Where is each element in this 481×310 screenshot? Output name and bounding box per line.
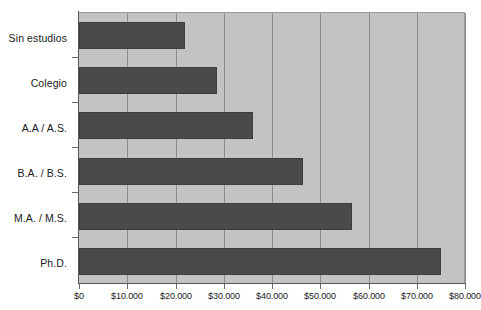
y-axis-label-3: B.A. / B.S. xyxy=(0,168,67,179)
y-axis-category-labels: Sin estudios Colegio A.A / A.S. B.A. / B… xyxy=(0,12,72,283)
x-axis-tick-label-6: $60.000 xyxy=(353,291,385,301)
x-axis-tick-1 xyxy=(127,284,128,289)
plot-area xyxy=(79,12,465,283)
y-axis-label-0: Sin estudios xyxy=(0,33,67,44)
x-axis-tick-2 xyxy=(176,284,177,289)
x-axis-tick-label-4: $40.000 xyxy=(256,291,288,301)
y-axis-label-4: M.A. / M.S. xyxy=(0,213,67,224)
y-axis-label-1: Colegio xyxy=(0,78,67,89)
x-axis-tick-8 xyxy=(465,284,466,289)
x-gridline xyxy=(272,13,273,284)
x-axis-tick-label-8: $80.000 xyxy=(449,291,481,301)
bar-4 xyxy=(79,203,352,230)
x-axis-tick-0 xyxy=(79,284,80,289)
x-gridline xyxy=(465,13,466,284)
x-axis-tick-4 xyxy=(272,284,273,289)
bar-1 xyxy=(79,67,217,94)
x-gridline xyxy=(417,13,418,284)
x-axis-tick-label-2: $20.000 xyxy=(160,291,192,301)
x-axis-tick-6 xyxy=(369,284,370,289)
x-axis-tick-7 xyxy=(417,284,418,289)
x-gridline xyxy=(127,13,128,284)
bar-0 xyxy=(79,22,185,49)
bar-5 xyxy=(79,248,441,275)
y-axis-label-2: A.A / A.S. xyxy=(0,123,67,134)
x-axis-tick-label-3: $30.000 xyxy=(208,291,240,301)
x-axis-tick-label-0: $0 xyxy=(74,291,84,301)
x-axis-tick-label-5: $50.000 xyxy=(304,291,336,301)
x-gridline xyxy=(176,13,177,284)
y-axis-line xyxy=(78,11,79,284)
x-axis-tick-label-1: $10.000 xyxy=(111,291,143,301)
x-axis-tick-3 xyxy=(224,284,225,289)
x-axis-tick-5 xyxy=(320,284,321,289)
bar-2 xyxy=(79,112,253,139)
x-axis-tick-label-7: $70.000 xyxy=(401,291,433,301)
x-gridline xyxy=(224,13,225,284)
y-axis-label-5: Ph.D. xyxy=(0,258,67,269)
x-gridline xyxy=(369,13,370,284)
x-gridline xyxy=(320,13,321,284)
bar-3 xyxy=(79,158,303,185)
